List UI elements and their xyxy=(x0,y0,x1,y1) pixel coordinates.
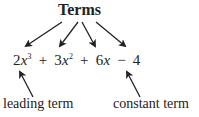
term-1: 2x3 xyxy=(13,52,32,68)
leading-term-label: leading term xyxy=(3,96,73,112)
arrow-leading-term xyxy=(20,72,33,97)
term-2: 3x2 xyxy=(54,52,73,68)
arrow-to-term-4 xyxy=(96,22,125,46)
constant-term-label: constant term xyxy=(113,96,189,112)
arrow-to-term-2 xyxy=(60,22,78,46)
term-3: 6x xyxy=(96,52,111,68)
arrow-constant-term xyxy=(127,72,140,97)
term-4: 4 xyxy=(133,52,141,68)
operator: + xyxy=(36,52,51,68)
polynomial-expression: 2x3 + 3x2 + 6x − 4 xyxy=(13,52,141,69)
arrow-to-term-3 xyxy=(82,22,95,46)
arrow-to-term-1 xyxy=(26,22,62,46)
operator: − xyxy=(114,52,129,68)
operator: + xyxy=(77,52,92,68)
